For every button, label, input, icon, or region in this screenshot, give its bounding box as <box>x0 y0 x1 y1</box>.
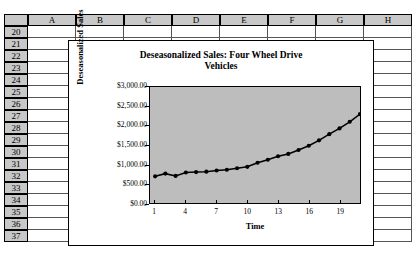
row-header-24[interactable]: 24 <box>4 74 28 86</box>
x-tick-mark-7 <box>216 200 217 204</box>
data-point <box>153 174 157 178</box>
x-tick-label-4: 4 <box>175 207 195 216</box>
series-markers <box>153 112 360 178</box>
select-all-corner[interactable] <box>4 14 28 26</box>
row-header-37[interactable]: 37 <box>4 230 28 242</box>
y-tick-label-2000: $2,000.00 <box>89 121 147 129</box>
data-point <box>174 174 178 178</box>
data-point <box>235 166 239 170</box>
data-point <box>163 172 167 176</box>
data-point <box>348 120 352 124</box>
y-tick-label-1500: $1,500.00 <box>89 141 147 149</box>
data-point <box>327 132 331 136</box>
row-header-25[interactable]: 25 <box>4 86 28 98</box>
data-point <box>286 152 290 156</box>
cell-G20[interactable] <box>316 26 364 38</box>
x-axis-title: Time <box>149 221 361 231</box>
row-header-20[interactable]: 20 <box>4 26 28 38</box>
data-point <box>337 126 341 130</box>
row-header-31[interactable]: 31 <box>4 158 28 170</box>
x-tick-label-10: 10 <box>237 207 257 216</box>
row-header-34[interactable]: 34 <box>4 194 28 206</box>
cell-C20[interactable] <box>124 26 172 38</box>
row-header-27[interactable]: 27 <box>4 110 28 122</box>
row-header-21[interactable]: 21 <box>4 38 28 50</box>
y-tick-label-500: $500.00 <box>89 180 147 188</box>
chart-title-line-2: Vehicles <box>69 61 373 72</box>
x-tick-mark-13 <box>278 200 279 204</box>
data-point <box>255 161 259 165</box>
x-tick-label-19: 19 <box>330 207 350 216</box>
row-header-30[interactable]: 30 <box>4 146 28 158</box>
data-point <box>194 170 198 174</box>
cell-H20[interactable] <box>364 26 412 38</box>
chart-title-line-1: Deseasonalized Sales: Four Wheel Drive <box>69 50 373 61</box>
y-tick-label-1000: $1,000.00 <box>89 161 147 169</box>
embedded-chart-object[interactable]: Deseasonalized Sales: Four Wheel Drive V… <box>68 40 374 246</box>
data-point <box>215 168 219 172</box>
data-point <box>245 165 249 169</box>
row-header-32[interactable]: 32 <box>4 170 28 182</box>
y-axis-tick-labels: $3,000.00$2,500.00$2,000.00$1,500.00$1,0… <box>87 86 147 204</box>
x-tick-mark-1 <box>154 200 155 204</box>
cell-A20[interactable] <box>28 26 76 38</box>
y-tick-label-3000: $3,000.00 <box>89 82 147 90</box>
x-tick-label-1: 1 <box>144 207 164 216</box>
data-point <box>296 148 300 152</box>
cell-E20[interactable] <box>220 26 268 38</box>
row-header-26[interactable]: 26 <box>4 98 28 110</box>
row-header-29[interactable]: 29 <box>4 134 28 146</box>
x-tick-label-13: 13 <box>268 207 288 216</box>
row-header-23[interactable]: 23 <box>4 62 28 74</box>
x-tick-mark-10 <box>247 200 248 204</box>
y-tick-label-0: $0.00 <box>89 200 147 208</box>
x-tick-label-7: 7 <box>206 207 226 216</box>
row-header-36[interactable]: 36 <box>4 218 28 230</box>
row-header-28[interactable]: 28 <box>4 122 28 134</box>
data-point <box>317 138 321 142</box>
data-point <box>184 170 188 174</box>
row-header-35[interactable]: 35 <box>4 206 28 218</box>
x-tick-mark-19 <box>340 200 341 204</box>
series-line-deseasonalized-sales <box>155 114 360 176</box>
chart-title: Deseasonalized Sales: Four Wheel Drive V… <box>69 50 373 72</box>
y-tick-label-2500: $2,500.00 <box>89 102 147 110</box>
data-point <box>276 154 280 158</box>
row-header-22[interactable]: 22 <box>4 50 28 62</box>
row-header-33[interactable]: 33 <box>4 182 28 194</box>
cell-D20[interactable] <box>172 26 220 38</box>
x-tick-mark-4 <box>185 200 186 204</box>
data-point <box>307 144 311 148</box>
data-point <box>225 168 229 172</box>
x-axis-tick-labels: 14710131619 <box>149 207 361 219</box>
cell-F20[interactable] <box>268 26 316 38</box>
line-series-svg <box>150 87 360 203</box>
plot-area <box>149 86 361 204</box>
data-point <box>204 170 208 174</box>
x-tick-label-16: 16 <box>299 207 319 216</box>
y-axis-title: Deseasonalized Sales <box>75 0 85 106</box>
x-tick-mark-16 <box>309 200 310 204</box>
data-point <box>266 158 270 162</box>
